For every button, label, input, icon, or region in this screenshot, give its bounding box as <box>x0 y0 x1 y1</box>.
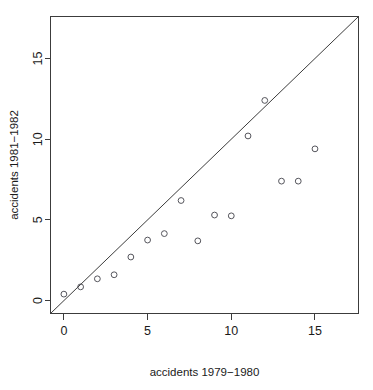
data-point <box>61 291 67 297</box>
identity-line <box>51 17 359 314</box>
scatter-plot-figure: 051015051015 accidents 1979−1980accident… <box>0 0 373 390</box>
data-point <box>128 254 134 260</box>
y-tick-label: 0 <box>32 297 46 304</box>
y-axis-title: accidents 1981−1982 <box>8 110 20 220</box>
data-point <box>161 231 167 237</box>
plot-canvas: 051015051015 accidents 1979−1980accident… <box>0 0 373 390</box>
data-points <box>61 98 318 298</box>
data-point <box>312 146 318 152</box>
data-point <box>111 272 117 278</box>
data-point <box>262 98 268 104</box>
x-tick-label: 5 <box>144 324 151 338</box>
y-tick-label: 5 <box>32 216 46 223</box>
y-tick-label: 10 <box>32 132 46 146</box>
axis-titles: accidents 1979−1980accidents 1981−1982 <box>8 110 259 378</box>
data-point <box>94 276 100 282</box>
data-point <box>228 213 234 219</box>
data-point <box>195 238 201 244</box>
x-axis-title: accidents 1979−1980 <box>150 366 260 378</box>
x-tick-label: 10 <box>224 324 238 338</box>
identity-reference-line <box>51 17 359 314</box>
data-point <box>245 133 251 139</box>
data-point <box>178 198 184 204</box>
x-tick-label: 0 <box>60 324 67 338</box>
data-point <box>145 237 151 243</box>
data-point <box>212 212 218 218</box>
data-point <box>279 178 285 184</box>
y-tick-label: 15 <box>32 51 46 65</box>
data-point <box>295 178 301 184</box>
x-tick-label: 15 <box>308 324 322 338</box>
